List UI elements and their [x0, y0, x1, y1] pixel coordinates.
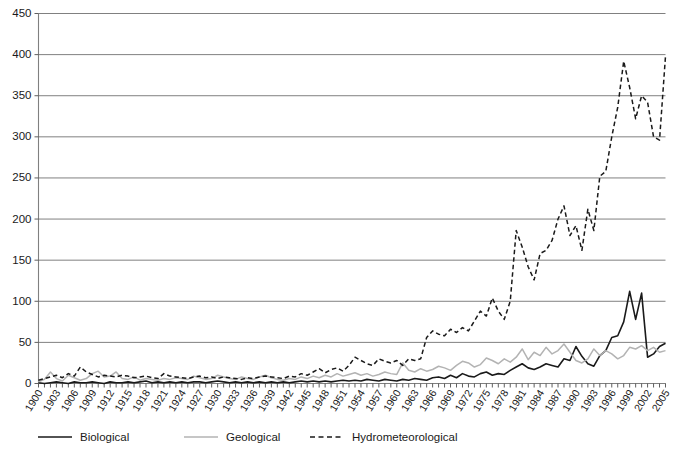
y-tick-label: 300	[12, 130, 31, 142]
data-series-group	[39, 56, 666, 383]
x-tick-label: 1933	[219, 387, 242, 413]
y-tick-label: 100	[12, 295, 31, 307]
x-tick-label: 2005	[649, 387, 672, 413]
x-tick-label: 1921	[148, 387, 171, 413]
x-tick-label: 1999	[613, 387, 636, 413]
x-tick-label: 1954	[345, 387, 368, 413]
y-tick-label: 50	[19, 336, 32, 348]
x-tick-label: 1915	[112, 387, 135, 413]
x-tick-label: 1978	[488, 387, 511, 413]
legend-label-hydrometeorological: Hydrometeorological	[352, 431, 457, 443]
gridlines	[39, 14, 666, 384]
x-tick-label: 1936	[237, 387, 260, 413]
y-tick-label: 250	[12, 171, 31, 183]
chart-legend: BiologicalGeologicalHydrometeorological	[38, 431, 457, 443]
x-tick-label: 1909	[76, 387, 99, 413]
chart-canvas: 050100150200250300350400450 190019031906…	[0, 0, 675, 450]
x-tick-label: 1996	[595, 387, 618, 413]
y-axis: 050100150200250300350400450	[12, 7, 38, 389]
x-tick-label: 1927	[183, 387, 206, 413]
x-tick-label: 1930	[201, 387, 224, 413]
x-tick-label: 1963	[398, 387, 421, 413]
x-tick-label: 1966	[416, 387, 439, 413]
x-tick-label: 1984	[524, 387, 547, 413]
series-line-biological	[39, 291, 666, 383]
x-tick-label: 1900	[22, 387, 45, 413]
y-tick-label: 350	[12, 89, 31, 101]
x-tick-label: 1924	[165, 387, 188, 413]
x-tick-label: 1948	[309, 387, 332, 413]
y-tick-label: 0	[25, 377, 31, 389]
x-tick-label: 1945	[291, 387, 314, 413]
x-tick-label: 1990	[560, 387, 583, 413]
disaster-frequency-line-chart: 050100150200250300350400450 190019031906…	[0, 0, 675, 450]
x-tick-label: 1981	[506, 387, 529, 413]
legend-label-geological: Geological	[226, 431, 280, 443]
x-tick-label: 1960	[380, 387, 403, 413]
x-axis: 1900190319061909191219151918192119241927…	[22, 384, 672, 414]
x-tick-label: 1975	[470, 387, 493, 413]
x-tick-label: 1912	[94, 387, 117, 413]
series-line-hydrometeorological	[39, 56, 666, 380]
x-tick-label: 1918	[130, 387, 153, 413]
x-tick-label: 1972	[452, 387, 475, 413]
x-tick-label: 1942	[273, 387, 296, 413]
y-tick-label: 200	[12, 213, 31, 225]
x-tick-label: 1906	[58, 387, 81, 413]
x-tick-label: 1969	[434, 387, 457, 413]
x-tick-label: 1987	[542, 387, 565, 413]
y-tick-label: 450	[12, 7, 31, 19]
legend-label-biological: Biological	[80, 431, 129, 443]
x-tick-label: 1939	[255, 387, 278, 413]
series-line-geological	[39, 344, 666, 382]
y-tick-label: 400	[12, 48, 31, 60]
x-tick-label: 1903	[40, 387, 63, 413]
x-tick-label: 1993	[577, 387, 600, 413]
x-tick-label: 1951	[327, 387, 350, 413]
x-tick-label: 2002	[631, 387, 654, 413]
y-tick-label: 150	[12, 254, 31, 266]
x-tick-label: 1957	[363, 387, 386, 413]
